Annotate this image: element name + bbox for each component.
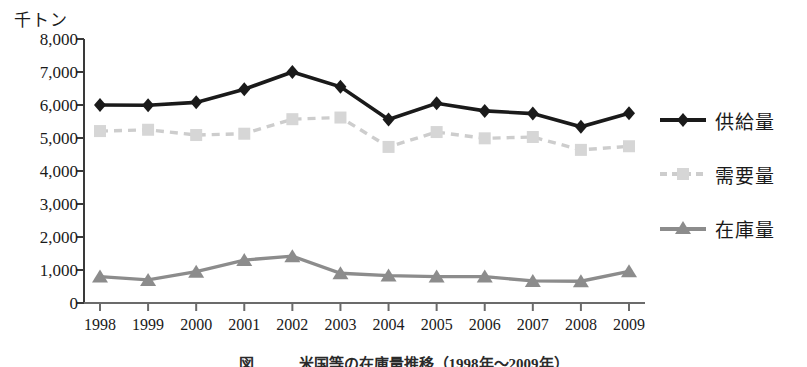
x-tick-label: 2004 [373,317,405,333]
data-point-marker [94,98,106,112]
data-point-marker [238,82,250,96]
data-point-marker [383,141,395,153]
data-point-marker [575,120,587,134]
legend-marker-diamond-icon [660,111,706,129]
x-tick-label: 2009 [613,317,645,333]
chart-figure: 千トン 01,0002,0003,0004,0005,0006,0007,000… [0,0,807,367]
data-point-marker [238,128,250,140]
x-tick-label: 2008 [565,317,597,333]
x-tick-label: 2005 [421,317,453,333]
x-tick-label: 2001 [228,317,260,333]
legend-item-supply[interactable]: 供給量 [660,100,807,140]
y-axis-tick-labels: 01,0002,0003,0004,0005,0006,0007,0008,00… [0,0,78,367]
x-tick-label: 2002 [276,317,308,333]
x-tick-label: 2007 [517,317,549,333]
x-tick-label: 1998 [84,317,116,333]
figure-caption: 図 米国等の在庫量推移（1998年～2009年） [0,352,807,367]
x-tick-label: 1999 [132,317,164,333]
data-point-marker [190,95,202,109]
data-point-marker [94,125,106,137]
y-tick-label: 7,000 [40,64,78,81]
legend-label-supply: 供給量 [715,107,775,134]
x-tick-label: 2000 [180,317,212,333]
y-tick-label: 8,000 [40,31,78,48]
data-point-marker [527,131,539,143]
data-point-marker [142,98,154,112]
legend-marker-triangle-icon [660,219,706,237]
y-tick-label: 1,000 [40,262,78,279]
y-tick-label: 0 [70,295,79,312]
data-point-marker [623,106,635,120]
data-point-marker [527,107,539,121]
y-tick-label: 5,000 [40,130,78,147]
data-point-marker [623,140,635,152]
legend-label-demand: 需要量 [715,161,775,188]
data-point-marker [431,96,443,110]
x-tick-label: 2003 [324,317,356,333]
data-point-marker [334,112,346,124]
y-tick-label: 4,000 [40,163,78,180]
chart-legend: 供給量 需要量 在庫量 [660,100,807,262]
data-point-marker [190,129,202,141]
legend-label-stock: 在庫量 [715,215,775,242]
data-point-marker [431,126,443,138]
data-point-marker [575,144,587,156]
y-tick-label: 3,000 [40,196,78,213]
data-point-marker [286,113,298,125]
y-tick-label: 2,000 [40,229,78,246]
data-point-marker [142,124,154,136]
data-point-marker [479,132,491,144]
data-point-marker [286,65,298,79]
legend-marker-square-icon [660,165,706,183]
y-tick-label: 6,000 [40,97,78,114]
legend-item-stock[interactable]: 在庫量 [660,208,807,248]
legend-item-demand[interactable]: 需要量 [660,154,807,194]
x-tick-label: 2006 [469,317,501,333]
data-point-marker [479,104,491,118]
